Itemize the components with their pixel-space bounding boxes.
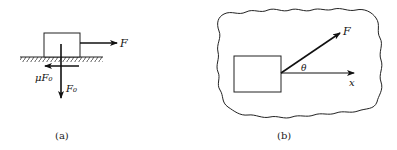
caption-a: (a) [55, 130, 69, 141]
diagram-a: F F₀ μF₀ (a) [20, 33, 128, 141]
friction-force-label: μF₀ [35, 72, 52, 83]
x-axis-label: x [349, 77, 355, 88]
applied-force-label: F [119, 37, 128, 50]
block-a [44, 33, 80, 57]
figure-canvas: F F₀ μF₀ (a) F θ x (b) [0, 0, 397, 150]
angle-label: θ [301, 63, 307, 73]
block-b [234, 56, 281, 92]
caption-b: (b) [277, 130, 291, 141]
normal-force-label: F₀ [65, 83, 77, 94]
angled-force-arrow [281, 33, 340, 73]
diagram-b: F θ x (b) [217, 9, 382, 141]
angled-force-label: F [342, 25, 351, 38]
